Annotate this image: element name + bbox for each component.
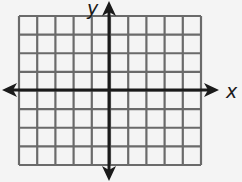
axes [2, 1, 219, 181]
coordinate-plane: y x [0, 0, 242, 182]
x-axis-label: x [225, 80, 238, 102]
y-axis-label: y [86, 0, 99, 19]
